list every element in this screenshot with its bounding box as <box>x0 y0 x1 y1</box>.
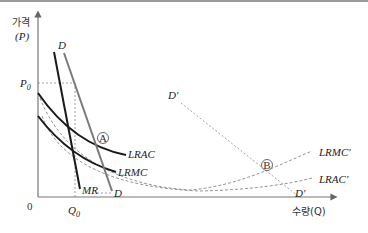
point-b-marker: B <box>262 159 273 171</box>
p0-label: P0 <box>19 77 31 92</box>
svg-text:A: A <box>99 132 107 144</box>
lrmc-label: LRMC <box>117 166 148 178</box>
demand-end-label: D <box>113 187 122 199</box>
svg-text:B: B <box>263 159 270 171</box>
demand-prime-label: D′ <box>167 89 179 101</box>
lrmc-curve <box>38 116 116 172</box>
q0-label: Q0 <box>68 204 80 219</box>
mr-label: MR <box>81 184 98 196</box>
demand-prime-curve <box>181 103 298 196</box>
demand-prime-end-label: D′ <box>294 187 306 199</box>
point-a-marker: A <box>98 132 109 144</box>
origin-label: 0 <box>27 200 33 212</box>
y-axis-label: 가격 <box>12 16 30 28</box>
mr-curve <box>54 52 80 189</box>
lrac-prime-curve <box>42 116 312 191</box>
lrmc-prime-label: LRMC′ <box>318 146 351 158</box>
economics-diagram: 가격 (P) 0 수량(Q) P0 Q0 D D MR LRAC LRMC D′… <box>0 0 368 233</box>
y-axis-label-symbol: (P) <box>15 30 29 43</box>
x-axis-label: 수량(Q) <box>292 206 326 217</box>
demand-curve <box>64 53 112 191</box>
lrac-prime-label: LRAC′ <box>318 173 349 185</box>
lrmc-prime-curve <box>40 98 312 190</box>
demand-label: D <box>57 39 66 51</box>
lrac-label: LRAC <box>127 148 156 160</box>
